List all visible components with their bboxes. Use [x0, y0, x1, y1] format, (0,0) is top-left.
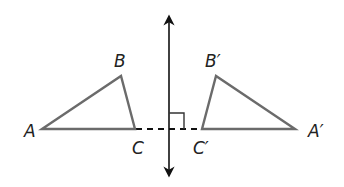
label-c: C — [132, 138, 144, 158]
label-c-prime: C′ — [193, 138, 209, 158]
label-b: B — [114, 51, 126, 71]
label-a: A — [23, 121, 36, 141]
label-a-prime: A′ — [307, 121, 324, 141]
triangle-a-prime-b-prime-c-prime — [202, 76, 295, 129]
label-b-prime: B′ — [205, 51, 221, 71]
reflection-diagram: A B C B′ C′ A′ — [0, 0, 344, 187]
triangle-abc — [42, 76, 135, 129]
right-angle-marker — [169, 113, 184, 129]
